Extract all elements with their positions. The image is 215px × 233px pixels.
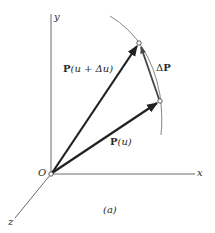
delta-p-label: ΔP	[156, 63, 171, 73]
vector-delta-p	[141, 47, 159, 99]
vector-diagram	[0, 0, 215, 233]
vector-p-u	[52, 103, 157, 173]
x-axis-label: x	[197, 168, 203, 178]
z-axis	[15, 174, 51, 218]
delta-p-symbol: P	[163, 62, 171, 73]
p-u-label: P(u)	[110, 137, 132, 147]
p-u-du-label: P(u + Δu)	[63, 64, 113, 74]
point-p-u-du	[137, 41, 141, 45]
point-p-u	[158, 99, 162, 103]
p-u-du-symbol: P	[63, 63, 71, 74]
y-axis-label: y	[54, 12, 60, 22]
point-origin	[49, 172, 53, 176]
z-axis-label: z	[8, 217, 13, 227]
p-u-du-argument: (u + Δu)	[71, 63, 114, 74]
p-u-argument: (u)	[118, 136, 132, 147]
p-u-symbol: P	[110, 136, 118, 147]
figure-caption: (a)	[103, 205, 117, 215]
origin-label: O	[38, 168, 46, 178]
